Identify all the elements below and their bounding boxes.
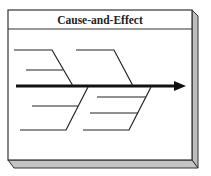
frame-shadow-bottom [8, 160, 198, 168]
diagram-title: Cause-and-Effect [8, 11, 192, 29]
frame-shadow-right [192, 10, 198, 168]
cause-and-effect-card: Cause-and-Effect [0, 0, 211, 176]
